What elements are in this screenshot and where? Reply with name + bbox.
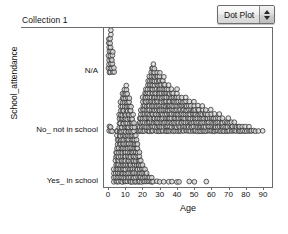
data-point[interactable] <box>232 120 237 125</box>
data-point[interactable] <box>175 87 180 92</box>
x-axis-tick-label: 20 <box>138 190 147 199</box>
x-axis-tick-mark <box>177 187 178 190</box>
data-point[interactable] <box>192 99 197 104</box>
data-point[interactable] <box>187 179 192 184</box>
data-point[interactable] <box>110 129 115 134</box>
data-point[interactable] <box>125 91 130 96</box>
x-axis-tick-label: 80 <box>241 190 250 199</box>
x-axis-tick-mark <box>125 187 126 190</box>
x-axis-tick-label: 90 <box>259 190 268 199</box>
y-axis-title: School_attendance <box>9 18 19 148</box>
x-axis-title: Age <box>103 203 273 213</box>
plot-area[interactable] <box>103 28 273 188</box>
data-point[interactable] <box>138 158 143 163</box>
dot-plot-window: Collection 1 Dot Plot School_attendance … <box>0 0 288 234</box>
x-axis-tick-mark <box>263 187 264 190</box>
x-axis-tick-label: 0 <box>106 190 110 199</box>
x-axis-tick-label: 60 <box>207 190 216 199</box>
data-point[interactable] <box>203 108 208 113</box>
data-point[interactable] <box>127 96 132 101</box>
x-axis-tick-mark <box>142 187 143 190</box>
x-axis-tick-labels: 0102030405060708090 <box>103 190 273 202</box>
data-point[interactable] <box>212 112 217 117</box>
x-axis-tick-mark <box>211 187 212 190</box>
x-axis-tick-mark <box>246 187 247 190</box>
data-point[interactable] <box>137 150 142 155</box>
y-axis-category-label: Yes_ in school <box>47 176 98 185</box>
data-point[interactable] <box>135 142 140 147</box>
data-point[interactable] <box>226 116 231 121</box>
data-point[interactable] <box>108 41 113 46</box>
data-point[interactable] <box>204 179 209 184</box>
data-point[interactable] <box>151 62 156 67</box>
x-axis-tick-mark <box>194 187 195 190</box>
data-point[interactable] <box>110 58 115 63</box>
x-axis-tick-mark <box>160 187 161 190</box>
triangle-down-icon[interactable] <box>264 16 270 20</box>
x-axis-tick-mark <box>108 187 109 190</box>
x-axis-tick-mark <box>229 187 230 190</box>
data-point[interactable] <box>177 179 182 184</box>
data-point[interactable] <box>112 66 117 71</box>
collection-title: Collection 1 <box>22 15 68 25</box>
plot-type-dropdown[interactable]: Dot Plot <box>217 5 275 24</box>
x-axis-tick-label: 30 <box>155 190 164 199</box>
x-axis-tick-label: 40 <box>172 190 181 199</box>
data-point[interactable] <box>133 133 138 138</box>
data-point[interactable] <box>217 112 222 117</box>
x-axis-tick-label: 50 <box>190 190 199 199</box>
data-point[interactable] <box>170 179 175 184</box>
x-axis-tick-label: 70 <box>224 190 233 199</box>
dot-plot-canvas <box>104 28 272 187</box>
data-point[interactable] <box>124 83 129 88</box>
plot-type-stepper[interactable] <box>259 6 274 23</box>
data-point[interactable] <box>192 179 197 184</box>
data-point[interactable] <box>162 74 167 79</box>
y-axis-category-label: No_ not in school <box>36 125 98 134</box>
data-point[interactable] <box>157 70 162 75</box>
x-axis-tick-label: 10 <box>121 190 130 199</box>
data-point[interactable] <box>132 121 137 126</box>
y-axis-category-label: N/A <box>85 66 98 75</box>
data-point[interactable] <box>131 112 136 117</box>
data-point[interactable] <box>110 49 115 54</box>
data-point[interactable] <box>200 104 205 109</box>
data-point[interactable] <box>129 104 134 109</box>
data-point[interactable] <box>144 171 149 176</box>
data-point[interactable] <box>208 107 213 112</box>
data-point[interactable] <box>260 128 265 133</box>
data-point[interactable] <box>161 179 166 184</box>
data-point[interactable] <box>183 95 188 100</box>
plot-type-selected-label: Dot Plot <box>218 6 259 23</box>
triangle-up-icon[interactable] <box>264 10 270 14</box>
data-point[interactable] <box>108 28 113 33</box>
